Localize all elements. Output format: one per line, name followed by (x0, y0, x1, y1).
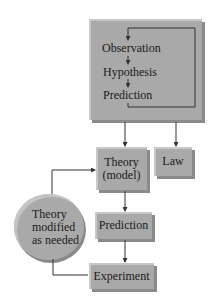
connectors (0, 0, 212, 301)
